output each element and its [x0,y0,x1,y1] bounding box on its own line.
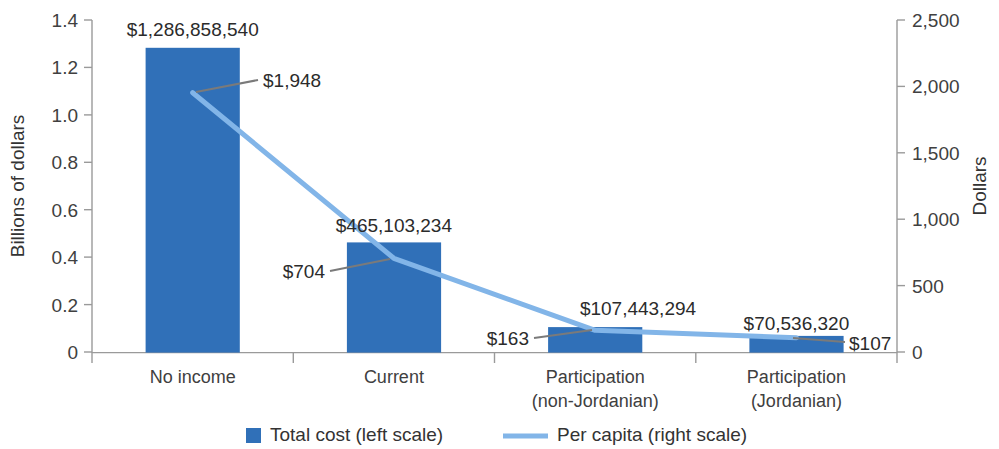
left-tick-label: 0 [67,342,78,363]
category-label-part-non-2: (non-Jordanian) [532,391,659,411]
bar-series [146,48,844,353]
left-tick-label: 0.2 [52,295,78,316]
per-capita-line[interactable] [193,93,797,338]
right-tick-label: 2,000 [912,76,960,97]
category-label-part-jor-2: (Jordanian) [751,391,842,411]
legend-label-per-capita: Per capita (right scale) [557,424,747,445]
left-axis-title: Billions of dollars [7,115,28,258]
left-tick-label: 1.0 [52,105,78,126]
left-axis-group: 1.4 1.2 1.0 0.8 0.6 0.4 0.2 0 Billions o… [7,10,92,363]
right-tick-label: 500 [912,276,944,297]
category-label-part-jor-1: Participation [747,367,846,387]
category-label-no-income: No income [150,367,236,387]
left-tick-label: 0.8 [52,152,78,173]
right-tick-label: 0 [912,342,923,363]
right-tick-label: 1,500 [912,143,960,164]
right-tick-label: 1,000 [912,209,960,230]
line-label-107: $107 [849,333,891,354]
left-tick-label: 0.4 [52,247,79,268]
category-label-current: Current [364,367,424,387]
bar-label-participation-non: $107,443,294 [580,298,697,319]
line-series [193,93,797,338]
right-axis-group: 2,500 2,000 1,500 1,000 500 0 Dollars [897,10,990,363]
left-tick-label: 0.6 [52,200,78,221]
legend: Total cost (left scale) Per capita (righ… [246,424,747,445]
chart-svg: 1.4 1.2 1.0 0.8 0.6 0.4 0.2 0 Billions o… [0,0,999,449]
bar-label-participation-jor: $70,536,320 [744,313,850,334]
left-tick-label: 1.4 [52,10,79,31]
x-axis-group [92,353,897,363]
left-tick-label: 1.2 [52,57,78,78]
legend-label-total-cost: Total cost (left scale) [270,424,443,445]
right-axis-title: Dollars [969,156,990,215]
legend-swatch-total-cost[interactable] [246,428,261,443]
chart-container: 1.4 1.2 1.0 0.8 0.6 0.4 0.2 0 Billions o… [0,0,999,449]
right-tick-label: 2,500 [912,10,960,31]
line-label-163: $163 [487,328,529,349]
category-label-part-non-1: Participation [546,367,645,387]
category-labels: No income Current Participation (non-Jor… [150,367,846,411]
bar-label-no-income: $1,286,858,540 [127,19,259,40]
line-label-1948: $1,948 [263,70,321,91]
line-label-704: $704 [283,261,326,282]
bar-label-current: $465,103,234 [336,215,453,236]
